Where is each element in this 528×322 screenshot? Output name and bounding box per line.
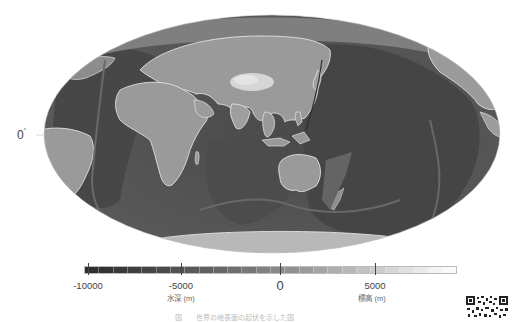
colorbar-segment	[414, 267, 428, 273]
continent-australia	[279, 155, 321, 192]
colorbar-tick-label: -5000	[169, 280, 193, 291]
colorbar-tick-label: 0	[276, 278, 283, 293]
figure-caption: 図 世界の地表面の起伏を示した図	[175, 312, 294, 322]
continent-antarctica	[150, 231, 400, 260]
colorbar-segment	[228, 267, 242, 273]
colorbar-segment	[314, 267, 328, 273]
colorbar-segment	[443, 267, 456, 273]
colorbar-tick-label: -10000	[73, 280, 103, 291]
colorbar-segment	[242, 267, 256, 273]
colorbar-segment	[400, 267, 414, 273]
colorbar-segment	[142, 267, 156, 273]
qr-code-icon[interactable]	[466, 296, 508, 319]
colorbar-segment	[386, 267, 400, 273]
colorbar-segment	[214, 267, 228, 273]
colorbar-segment	[185, 267, 199, 273]
colorbar-segment	[343, 267, 357, 273]
elevation-colorbar	[84, 266, 457, 274]
colorbar-segment	[285, 267, 299, 273]
colorbar-segment	[371, 267, 385, 273]
colorbar-tick	[181, 263, 182, 275]
colorbar-segment	[357, 267, 371, 273]
colorbar-tick	[280, 263, 281, 275]
colorbar-segment	[429, 267, 443, 273]
elevation-axis-label: 標高 (m)	[358, 292, 385, 303]
equator-label: 0°	[17, 128, 26, 142]
colorbar-segment	[200, 267, 214, 273]
colorbar-segment	[171, 267, 185, 273]
colorbar-segment	[128, 267, 142, 273]
colorbar-segment	[300, 267, 314, 273]
colorbar-tick-label: 5000	[364, 280, 385, 291]
colorbar-segment	[99, 267, 113, 273]
colorbar-segment	[328, 267, 342, 273]
world-relief-map	[0, 0, 528, 260]
colorbar-segment	[114, 267, 128, 273]
depth-axis-label: 水深 (m)	[167, 292, 194, 303]
colorbar-segment	[271, 267, 285, 273]
colorbar-tick	[88, 263, 89, 275]
colorbar-tick	[375, 263, 376, 275]
colorbar-segment	[157, 267, 171, 273]
colorbar-segment	[257, 267, 271, 273]
